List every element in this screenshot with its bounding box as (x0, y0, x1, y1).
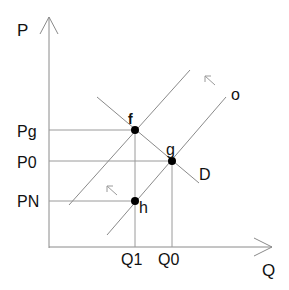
demand-curve (97, 97, 199, 183)
price-label-pg: Pg (17, 123, 37, 140)
price-label-p0: P0 (17, 154, 37, 171)
quantity-label-q1: Q1 (121, 251, 142, 268)
quantity-label-q0: Q0 (158, 251, 179, 268)
point-label-g: g (166, 141, 175, 158)
demand-curve-label: D (199, 166, 211, 183)
x-axis-label: Q (262, 261, 275, 280)
point-label-h: h (139, 199, 148, 216)
shift-arrow-icon (107, 186, 117, 195)
point-h (131, 197, 139, 205)
point-label-f: f (128, 111, 133, 127)
y-axis-label: P (17, 21, 28, 40)
supply-curve-label: o (231, 86, 240, 103)
price-label-pn: PN (17, 193, 39, 210)
equilibrium-points (131, 126, 176, 205)
point-f (131, 126, 139, 134)
shift-arrow-icon (205, 76, 215, 85)
axes (40, 17, 272, 256)
supply-demand-diagram: P Q Pg P0 PN Q1 Q0 o D f g h (0, 0, 289, 290)
point-g (168, 157, 176, 165)
